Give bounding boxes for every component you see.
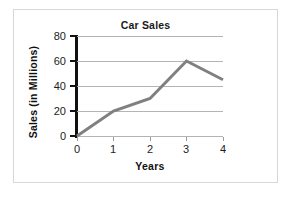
y-tick-label: 20 <box>22 105 66 117</box>
y-tick-label: 60 <box>22 55 66 67</box>
y-tick-label: 40 <box>22 80 66 92</box>
x-tick-mark <box>150 137 151 141</box>
line-series-svg <box>77 36 223 136</box>
line-series-path <box>77 61 223 136</box>
x-tick-mark <box>223 137 224 141</box>
x-tick-label: 4 <box>213 143 233 155</box>
x-tick-label: 2 <box>140 143 160 155</box>
y-tick-label: 80 <box>22 30 66 42</box>
y-tick-mark <box>70 60 76 62</box>
y-tick-mark <box>70 135 76 137</box>
x-axis-title: Years <box>77 160 223 172</box>
x-tick-label: 0 <box>67 143 87 155</box>
x-tick-label: 3 <box>176 143 196 155</box>
x-tick-mark <box>186 137 187 141</box>
x-tick-label: 1 <box>103 143 123 155</box>
y-tick-mark <box>70 110 76 112</box>
gridline <box>77 136 223 137</box>
x-tick-mark <box>113 137 114 141</box>
chart-frame: Car Sales Sales (in Millions) Years 80 6… <box>13 9 278 183</box>
y-tick-mark <box>70 35 76 37</box>
y-tick-mark <box>70 85 76 87</box>
x-tick-mark <box>77 137 78 141</box>
y-tick-label: 0 <box>22 130 66 142</box>
plot-area <box>77 36 223 136</box>
